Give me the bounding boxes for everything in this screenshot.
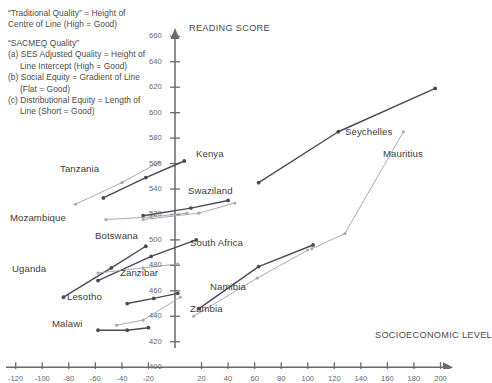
x-tick-label: -20 bbox=[139, 374, 157, 383]
y-tick-label: 420 bbox=[149, 337, 162, 346]
y-tick-label: 620 bbox=[149, 82, 162, 91]
x-tick-label: 80 bbox=[272, 374, 290, 383]
country-label-south-africa: South Africa bbox=[190, 237, 243, 248]
x-tick-label: 20 bbox=[193, 374, 211, 383]
y-tick-label: 440 bbox=[149, 311, 162, 320]
country-label-mozambique: Mozambique bbox=[10, 212, 66, 223]
y-tick-label: 600 bbox=[149, 108, 162, 117]
country-label-mauritius: Mauritius bbox=[383, 148, 423, 159]
country-label-kenya: Kenya bbox=[196, 148, 224, 159]
y-tick-label: 580 bbox=[149, 133, 162, 142]
country-label-botswana: Botswana bbox=[95, 230, 138, 241]
y-tick-label-origin: 400 bbox=[149, 362, 162, 371]
x-tick-label: -120 bbox=[7, 374, 25, 383]
country-label-namibia: Namibia bbox=[210, 281, 246, 292]
y-tick-label: 480 bbox=[149, 260, 162, 269]
x-tick-label: 40 bbox=[219, 374, 237, 383]
x-tick-label: 100 bbox=[299, 374, 317, 383]
country-label-zambia: Zambia bbox=[190, 303, 223, 314]
series-mozambique bbox=[104, 212, 188, 222]
y-tick-label: 560 bbox=[149, 159, 162, 168]
country-label-malawi: Malawi bbox=[52, 318, 82, 329]
x-tick-label: 120 bbox=[325, 374, 343, 383]
y-tick-label: 460 bbox=[149, 286, 162, 295]
y-tick-label: 660 bbox=[149, 31, 162, 40]
y-tick-label: 540 bbox=[149, 184, 162, 193]
country-label-swaziland: Swaziland bbox=[188, 185, 233, 196]
x-tick-label: -100 bbox=[33, 374, 51, 383]
x-tick-label: 60 bbox=[246, 374, 264, 383]
country-label-lesotho: Lesotho bbox=[67, 291, 102, 302]
x-tick-label: -60 bbox=[86, 374, 104, 383]
x-tick-label: -40 bbox=[113, 374, 131, 383]
series-kenya bbox=[101, 159, 186, 200]
country-label-tanzania: Tanzania bbox=[60, 163, 99, 174]
x-tick-label: 180 bbox=[405, 374, 423, 383]
y-tick-label: 500 bbox=[149, 235, 162, 244]
y-tick-label: 640 bbox=[149, 57, 162, 66]
series-south-africa bbox=[197, 243, 315, 310]
country-label-uganda: Uganda bbox=[12, 263, 46, 274]
x-tick-label: 140 bbox=[352, 374, 370, 383]
series-malawi bbox=[96, 326, 150, 332]
x-tick-label: 200 bbox=[432, 374, 450, 383]
y-tick-label: 520 bbox=[149, 209, 162, 218]
x-tick-label: -80 bbox=[60, 374, 78, 383]
country-label-seychelles: Seychelles bbox=[345, 126, 392, 137]
x-tick-label: 160 bbox=[378, 374, 396, 383]
